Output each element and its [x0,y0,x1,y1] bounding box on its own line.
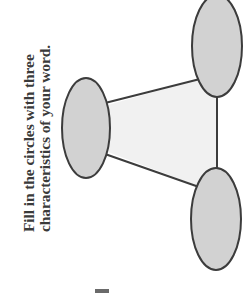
circle-left[interactable] [62,78,110,178]
circle-bottom-right[interactable] [191,168,241,270]
scan-artifact [95,289,109,293]
word-web-diagram [0,0,252,298]
worksheet-page: Fill in the circles with three character… [0,0,252,298]
circle-top-right[interactable] [192,0,242,97]
triangle-fill-region [108,79,217,186]
